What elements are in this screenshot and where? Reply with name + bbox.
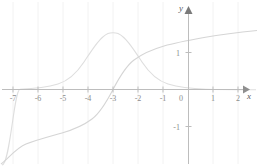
y-axis: 1 -1 y [173,3,192,164]
gridlines-vertical [13,2,238,164]
plot-canvas: -7 -6 -5 -4 -3 -2 -1 0 1 2 x 1 -1 y [0,0,258,166]
xtick-label--3: -3 [110,94,117,103]
xtick-label-2: 2 [236,94,240,103]
ytick-label--1: -1 [173,123,180,132]
xtick-label--2: -2 [135,94,142,103]
ytick-label-1: 1 [176,49,180,58]
xtick-label--5: -5 [60,94,67,103]
xtick-label-1: 1 [211,94,215,103]
xtick-label-0: 0 [179,94,183,103]
xtick-label--7: -7 [10,94,17,103]
xtick-label--4: -4 [85,94,92,103]
y-axis-title: y [178,3,183,13]
x-axis-title: x [246,91,251,101]
plot-figure: -7 -6 -5 -4 -3 -2 -1 0 1 2 x 1 -1 y [0,0,258,166]
xtick-label--6: -6 [35,94,42,103]
arrow-up-icon [185,6,193,14]
xtick-label--1: -1 [160,94,167,103]
